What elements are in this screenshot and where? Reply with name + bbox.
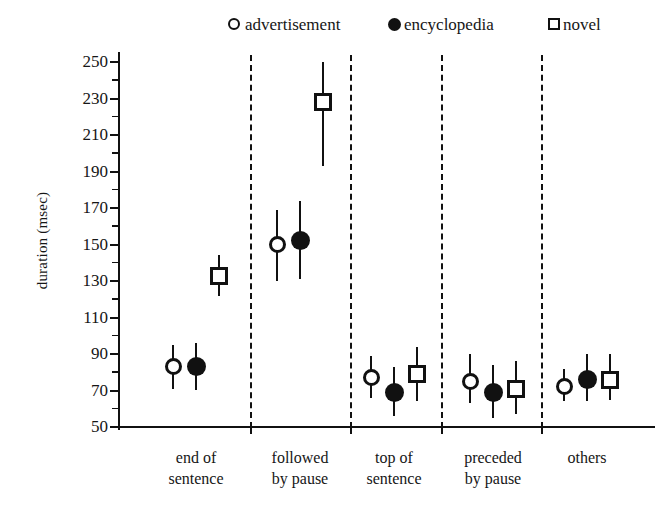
data-point-encyclopedia bbox=[184, 355, 208, 379]
y-tick-minor bbox=[112, 152, 119, 154]
open-square-marker-icon bbox=[408, 365, 426, 383]
data-point-advertisement bbox=[265, 233, 289, 257]
y-tick-minor bbox=[112, 189, 119, 191]
open-circle-marker-icon bbox=[462, 373, 479, 390]
data-point-novel bbox=[504, 377, 528, 401]
filled-circle-marker-icon bbox=[388, 18, 401, 31]
x-tick bbox=[350, 427, 352, 434]
y-tick-major bbox=[110, 98, 120, 100]
y-tick-major bbox=[110, 61, 120, 63]
data-point-novel bbox=[598, 368, 622, 392]
y-tick-label: 70 bbox=[62, 382, 108, 399]
y-tick-minor bbox=[112, 262, 119, 264]
y-tick-label: 110 bbox=[62, 309, 108, 326]
data-point-advertisement bbox=[359, 366, 383, 390]
y-tick-minor bbox=[112, 298, 119, 300]
open-square-marker-icon bbox=[314, 93, 332, 111]
x-axis-line bbox=[118, 426, 655, 428]
legend-label-advertisement: advertisement bbox=[245, 15, 340, 35]
y-tick-label: 250 bbox=[62, 53, 108, 70]
data-point-advertisement bbox=[161, 355, 185, 379]
group-separator-line bbox=[441, 55, 443, 428]
data-point-novel bbox=[311, 90, 335, 114]
y-tick-label: 210 bbox=[62, 126, 108, 143]
y-tick-major bbox=[110, 280, 120, 282]
y-tick-major bbox=[110, 317, 120, 319]
open-circle-marker-icon bbox=[556, 378, 573, 395]
y-tick-major bbox=[110, 390, 120, 392]
y-tick-major bbox=[110, 353, 120, 355]
open-square-marker-icon bbox=[601, 371, 619, 389]
group-separator-line bbox=[250, 55, 252, 428]
y-tick-label: 50 bbox=[62, 418, 108, 435]
y-tick-label: 190 bbox=[62, 163, 108, 180]
filled-circle-marker-icon bbox=[385, 383, 404, 402]
x-axis-category-label: others bbox=[527, 447, 647, 468]
group-separator-line bbox=[541, 55, 543, 428]
data-point-novel bbox=[207, 264, 231, 288]
x-tick bbox=[250, 427, 252, 434]
y-tick-major bbox=[110, 134, 120, 136]
legend-item-novel: novel bbox=[548, 14, 601, 34]
x-tick bbox=[441, 427, 443, 434]
legend-label-novel: novel bbox=[563, 15, 601, 35]
data-point-novel bbox=[405, 362, 429, 386]
x-tick bbox=[541, 427, 543, 434]
y-tick-label: 90 bbox=[62, 345, 108, 362]
group-separator-line bbox=[350, 55, 352, 428]
open-circle-marker-icon bbox=[363, 369, 380, 386]
data-point-advertisement bbox=[458, 369, 482, 393]
data-point-encyclopedia bbox=[288, 229, 312, 253]
data-point-encyclopedia bbox=[382, 380, 406, 404]
filled-circle-marker-icon bbox=[187, 357, 206, 376]
y-tick-minor bbox=[112, 225, 119, 227]
x-axis-category-label: end ofsentence bbox=[136, 447, 256, 489]
y-tick-minor bbox=[112, 79, 119, 81]
chart-legend: advertisement encyclopedia novel bbox=[0, 14, 671, 42]
y-tick-minor bbox=[112, 116, 119, 118]
scatter-chart: advertisement encyclopedia novel duratio… bbox=[0, 0, 671, 513]
open-circle-marker-icon bbox=[228, 18, 240, 30]
filled-circle-marker-icon bbox=[291, 231, 310, 250]
y-tick-major bbox=[110, 171, 120, 173]
y-tick-label: 170 bbox=[62, 199, 108, 216]
error-bar bbox=[322, 62, 324, 166]
x-label-line: sentence bbox=[136, 468, 256, 489]
y-tick-major bbox=[110, 244, 120, 246]
y-tick-minor bbox=[112, 371, 119, 373]
filled-circle-marker-icon bbox=[484, 383, 503, 402]
open-square-marker-icon bbox=[210, 267, 228, 285]
open-circle-marker-icon bbox=[165, 358, 182, 375]
open-circle-marker-icon bbox=[269, 236, 286, 253]
x-label-line: by pause bbox=[433, 468, 553, 489]
y-tick-label: 230 bbox=[62, 90, 108, 107]
open-square-marker-icon bbox=[548, 18, 560, 30]
y-tick-label: 150 bbox=[62, 236, 108, 253]
y-axis-line bbox=[118, 52, 120, 430]
y-tick-minor bbox=[112, 335, 119, 337]
x-label-line: end of bbox=[136, 447, 256, 468]
data-point-advertisement bbox=[552, 375, 576, 399]
legend-item-advertisement: advertisement bbox=[228, 14, 340, 34]
y-tick-minor bbox=[112, 408, 119, 410]
filled-circle-marker-icon bbox=[578, 370, 597, 389]
data-point-encyclopedia bbox=[481, 380, 505, 404]
open-square-marker-icon bbox=[507, 380, 525, 398]
legend-label-encyclopedia: encyclopedia bbox=[404, 15, 494, 35]
legend-item-encyclopedia: encyclopedia bbox=[388, 14, 494, 34]
y-axis-title: duration (msec) bbox=[34, 166, 51, 316]
y-tick-label: 130 bbox=[62, 272, 108, 289]
x-label-line: others bbox=[527, 447, 647, 468]
y-tick-major bbox=[110, 426, 120, 428]
data-point-encyclopedia bbox=[575, 368, 599, 392]
y-tick-major bbox=[110, 207, 120, 209]
